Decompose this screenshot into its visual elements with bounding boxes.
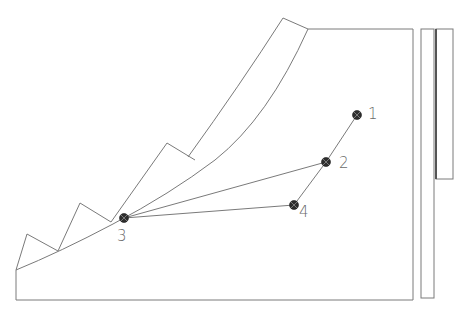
anchor-point-3[interactable]	[120, 214, 129, 223]
slope-step-2	[58, 203, 111, 251]
connection-2-4	[294, 162, 326, 205]
slope-step-1	[16, 234, 58, 270]
point-label-1: 1	[368, 107, 378, 122]
connection-3-2	[124, 162, 326, 218]
anchor-point-2[interactable]	[322, 158, 331, 167]
point-label-2: 2	[339, 156, 349, 171]
retaining-wall	[421, 29, 434, 298]
point-label-3: 3	[117, 229, 127, 244]
diagram-canvas	[0, 0, 469, 317]
anchor-point-1[interactable]	[353, 111, 362, 120]
anchor-point-4[interactable]	[290, 201, 299, 210]
slope-body-outline	[16, 29, 413, 300]
point-label-4: 4	[299, 205, 309, 220]
connection-3-4	[124, 205, 294, 218]
slope-upper-band	[188, 18, 308, 157]
wall-panel	[436, 29, 453, 179]
